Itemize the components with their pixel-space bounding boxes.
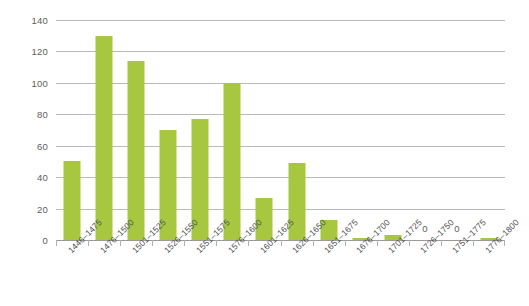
- bar-slot[interactable]: [377, 20, 409, 240]
- bar-slot[interactable]: [313, 20, 345, 240]
- bar[interactable]: [96, 36, 113, 240]
- bar-slot[interactable]: [56, 20, 88, 240]
- y-axis-tick-label: 120: [32, 46, 48, 57]
- y-axis-tick-label: 80: [37, 109, 48, 120]
- bar-chart: 020406080100120140 00 1446–14751476–1500…: [0, 0, 529, 306]
- bar-slot[interactable]: [473, 20, 505, 240]
- y-axis-tick-label: 60: [37, 140, 48, 151]
- x-axis-labels: 1446–14751476–15001501–15251526–15501551…: [56, 246, 505, 306]
- bar-slot[interactable]: 0: [409, 20, 441, 240]
- bar-slot[interactable]: [216, 20, 248, 240]
- bar[interactable]: [64, 161, 81, 240]
- bar[interactable]: [224, 83, 241, 240]
- bar-slot[interactable]: [248, 20, 280, 240]
- bar-slot[interactable]: [88, 20, 120, 240]
- bar-slot[interactable]: [120, 20, 152, 240]
- y-axis-labels: 020406080100120140: [0, 0, 56, 306]
- bar-slot[interactable]: [152, 20, 184, 240]
- bars-layer: 00: [56, 20, 505, 240]
- bar-slot[interactable]: [345, 20, 377, 240]
- bar-slot[interactable]: 0: [441, 20, 473, 240]
- y-axis-tick-label: 20: [37, 203, 48, 214]
- bar-slot[interactable]: [184, 20, 216, 240]
- y-axis-tick-label: 100: [32, 77, 48, 88]
- y-axis-tick-label: 40: [37, 172, 48, 183]
- bar-slot[interactable]: [281, 20, 313, 240]
- y-axis-tick-label: 140: [32, 15, 48, 26]
- y-axis-tick-label: 0: [43, 235, 48, 246]
- bar[interactable]: [128, 61, 145, 240]
